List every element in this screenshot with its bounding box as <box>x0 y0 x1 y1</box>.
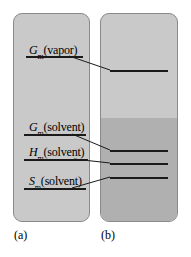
level-line-b-vapor <box>110 70 168 72</box>
level-symbol: S <box>29 174 35 188</box>
level-argument: (vapor) <box>44 43 78 57</box>
level-line-hm-solvent <box>24 159 88 161</box>
caption-panel-a: (a) <box>14 228 27 242</box>
panel-a: Gm(vapor) Gm(solvent) Hm(solvent) Sm(sol… <box>13 13 90 222</box>
caption-panel-b: (b) <box>101 228 115 242</box>
energy-level-figure: Gm(vapor) Gm(solvent) Hm(solvent) Sm(sol… <box>0 0 191 257</box>
panel-b <box>100 13 178 222</box>
level-line-b-hm <box>110 163 168 165</box>
level-line-sm-solvent <box>24 188 86 190</box>
level-line-b-gm <box>110 150 168 152</box>
level-argument: (solvent) <box>41 174 82 188</box>
level-argument: (solvent) <box>44 145 85 159</box>
level-argument: (solvent) <box>44 120 85 134</box>
level-line-gm-solvent <box>24 134 86 136</box>
level-line-gm-vapor <box>26 56 83 58</box>
level-label-sm-solvent: Sm(solvent) <box>29 175 82 188</box>
solvent-phase-region <box>101 118 177 221</box>
level-label-gm-solvent: Gm(solvent) <box>29 121 84 134</box>
level-label-hm-solvent: Hm(solvent) <box>29 146 84 159</box>
level-line-b-sm <box>110 177 168 179</box>
